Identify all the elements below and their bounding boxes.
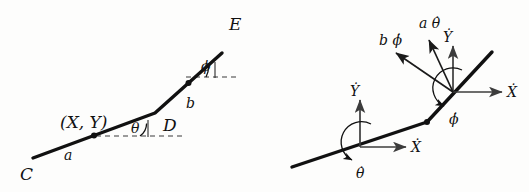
geometry-diagram-group: C D E a b θ ϕ (X, Y) [20,14,242,184]
node-dot-a [91,133,97,139]
label-point-c: C [20,164,33,184]
label-angle-phi: ϕ [201,58,211,74]
label-point-d: D [162,115,177,135]
member-polyline-velocity [292,52,492,167]
node-dot-b [186,80,192,86]
label-phi-dot: ϕ̇ [449,111,459,127]
label-point-e: E [228,14,242,34]
label-coordinates-xy: (X, Y) [60,112,107,132]
label-x-dot-lower: Ẋ [410,138,422,155]
label-theta-dot: θ̇ [356,165,365,181]
node-dot-bend [424,119,430,125]
label-segment-b: b [186,95,195,111]
label-x-dot-upper: Ẋ [506,83,518,100]
label-a-theta-dot: a θ̇ [419,15,441,31]
velocity-diagram-group: Ẏ Ẋ θ̇ Ẏ Ẋ ϕ̇ a θ̇ b ϕ̇ [292,15,518,181]
figure-canvas: C D E a b θ ϕ (X, Y) Ẏ Ẋ θ̇ [0,0,529,192]
label-segment-a: a [64,147,72,163]
theta-angle-arc [140,123,147,136]
label-y-dot-upper: Ẏ [443,28,454,45]
label-angle-theta: θ [131,120,140,136]
label-y-dot-lower: Ẏ [350,82,361,99]
figure-root: C D E a b θ ϕ (X, Y) Ẏ Ẋ θ̇ [0,0,529,192]
label-b-phi-dot: b ϕ̇ [379,32,402,48]
